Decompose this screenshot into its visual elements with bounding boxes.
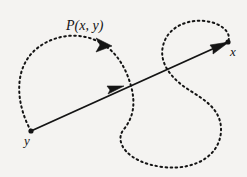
endpoint-label-x: x [230,45,236,58]
dotted-path-arrowhead [96,38,112,52]
dotted-curve-path [19,21,229,168]
diagram-svg [0,0,247,177]
figure-canvas: P(x, y) x y [0,0,247,177]
straight-arrow [31,42,228,131]
endpoint-label-y: y [24,134,30,147]
path-label-p-x-y: P(x, y) [66,19,103,33]
